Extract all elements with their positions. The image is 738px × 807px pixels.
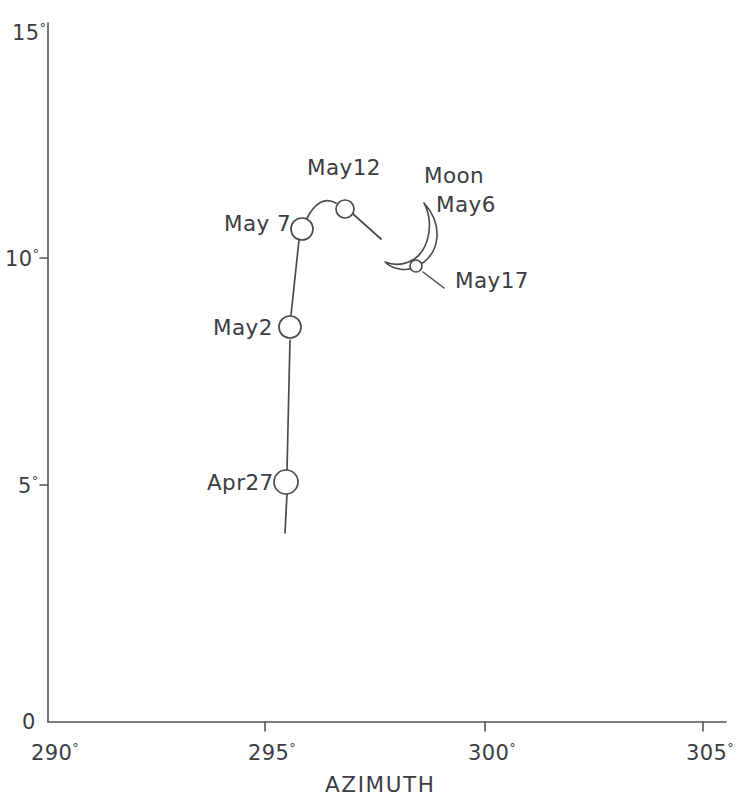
y-tick-5-value: 5: [18, 474, 32, 498]
point-label-may7: May 7: [224, 211, 291, 236]
y-tick-label-10: 10°: [5, 246, 39, 271]
point-label-may2: May2: [213, 315, 273, 340]
x-tick-label-305: 305°: [686, 740, 734, 765]
degree-icon: °: [509, 740, 516, 755]
x-axis-title: AZIMUTH: [325, 772, 436, 797]
y-tick-label-5: 5°: [18, 473, 39, 498]
marker-apr27[interactable]: [274, 470, 298, 494]
x-tick-295-value: 295: [248, 741, 289, 765]
x-tick-label-300: 300°: [468, 740, 516, 765]
degree-icon: °: [33, 246, 40, 261]
x-tick-label-290: 290°: [31, 740, 79, 765]
marker-may2[interactable]: [279, 316, 301, 338]
chart-canvas: [0, 0, 738, 807]
x-tick-305-value: 305: [686, 741, 727, 765]
point-label-may12: May12: [307, 155, 381, 180]
degree-icon: °: [289, 740, 296, 755]
marker-may12[interactable]: [336, 200, 354, 218]
degree-icon: °: [72, 740, 79, 755]
x-tick-290-value: 290: [31, 741, 72, 765]
comet-track-path: [285, 201, 381, 533]
degree-icon: °: [40, 20, 47, 35]
degree-icon: °: [32, 473, 39, 488]
x-tick-300-value: 300: [468, 741, 509, 765]
may17-leader-line: [423, 272, 444, 288]
degree-icon: °: [727, 740, 734, 755]
y-tick-label-15: 15°: [12, 20, 46, 45]
y-tick-10-value: 10: [5, 247, 33, 271]
point-label-apr27: Apr27: [207, 470, 274, 495]
marker-may17[interactable]: [410, 260, 422, 272]
moon-crescent-icon: [385, 203, 437, 269]
y-tick-label-0: 0: [22, 710, 36, 734]
point-label-may17: May17: [455, 268, 529, 293]
x-tick-label-295: 295°: [248, 740, 296, 765]
moon-date-label: May6: [436, 192, 496, 217]
moon-label: Moon: [424, 163, 484, 188]
chart-root: 15° 10° 5° 0 290° 295° 300° 305° AZIMUTH…: [0, 0, 738, 807]
marker-may7[interactable]: [291, 218, 313, 240]
y-tick-15-value: 15: [12, 21, 40, 45]
